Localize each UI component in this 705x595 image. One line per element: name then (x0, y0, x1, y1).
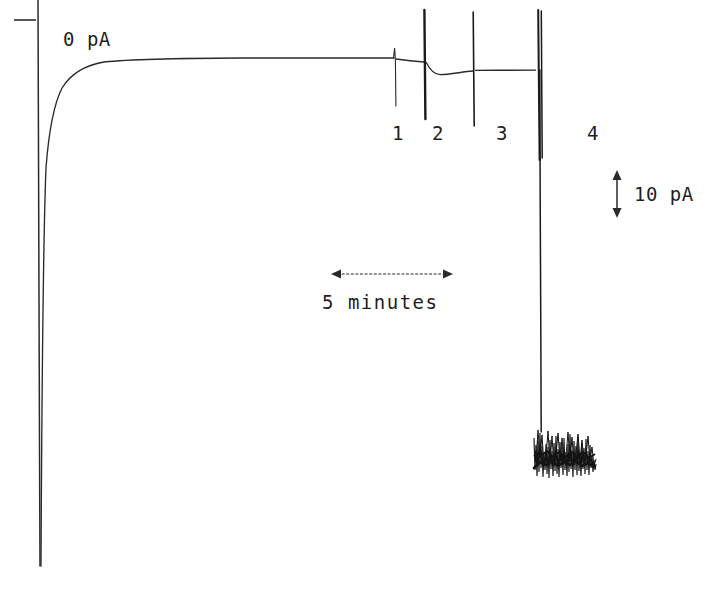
large-inward-current-stroke (540, 70, 541, 432)
channel-noise-burst (534, 430, 596, 478)
event-label-1: 1 (392, 122, 403, 144)
event-label-3: 3 (496, 122, 507, 144)
current-scale-bar (613, 170, 622, 218)
event-2-artifact (424, 10, 425, 119)
current-scale-label: 10 pA (634, 183, 694, 205)
time-scale-label: 5 minutes (322, 291, 438, 313)
figure-root: 0 pA 10 pA 5 minutes 1 2 3 4 (0, 0, 705, 595)
trace-segment-1-to-2 (396, 59, 424, 62)
zero-level-label: 0 pA (63, 28, 111, 50)
time-scale-bar (331, 270, 453, 279)
event-label-4: 4 (587, 122, 598, 144)
event-4-artifact-stroke-b (541, 11, 542, 158)
trace-segment-2-to-3 (426, 62, 473, 75)
initial-capacitive-transient (38, 0, 40, 566)
event-label-2: 2 (432, 122, 443, 144)
event-3-artifact (473, 12, 474, 126)
event-1-artifact (394, 48, 396, 106)
